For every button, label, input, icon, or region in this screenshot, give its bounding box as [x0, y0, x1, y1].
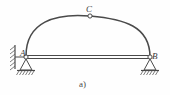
label-apex-hinge-c: C: [86, 5, 92, 14]
hinge-c-circle: [88, 14, 92, 18]
figure-caption: a): [79, 80, 86, 89]
label-right-support-b: B: [152, 52, 158, 61]
label-left-support-a: A: [20, 49, 26, 58]
figure-three-hinged-arch: C A B a): [0, 0, 170, 95]
